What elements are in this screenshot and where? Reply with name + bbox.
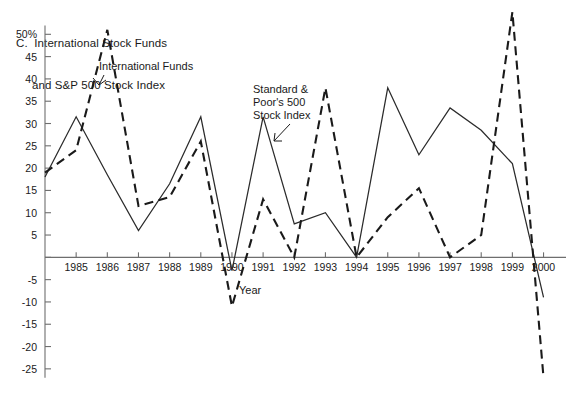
annotation-sp500-label-line-1: Standard & <box>253 83 309 95</box>
x-axis-tick-label: 1996 <box>407 261 431 273</box>
chart-figure: C. International Stock Funds and S&P 500… <box>0 0 584 398</box>
y-axis-tick-label: 45 <box>25 51 37 63</box>
x-axis-tick-label: 1995 <box>376 261 400 273</box>
x-axis-tick-label: 1999 <box>501 261 525 273</box>
y-axis-tick-label: 35 <box>25 95 37 107</box>
annotation-sp500-label-line-3: Stock Index <box>253 109 311 121</box>
y-axis-tick-label: 40 <box>25 73 37 85</box>
x-axis-tick-label: 1987 <box>127 261 151 273</box>
x-axis: 1985198619871988198919901991199219931994… <box>45 252 566 273</box>
x-axis-tick-label: 1993 <box>314 261 338 273</box>
x-axis-tick-label: 1989 <box>189 261 213 273</box>
annotation-international-funds-label: International Funds <box>99 60 194 72</box>
x-axis-tick-label: 1997 <box>438 261 462 273</box>
y-axis-tick-label: -20 <box>22 341 37 353</box>
x-axis-tick-label: 1986 <box>96 261 120 273</box>
y-axis-ticks: 50%45403530252015105-5-10-15-20-25 <box>16 28 51 375</box>
x-axis-ticks: 1985198619871988198919901991199219931994… <box>64 252 555 273</box>
annotation-sp500-label-line-2: Poor's 500 <box>253 96 305 108</box>
annotation-international-funds-leader <box>93 75 106 85</box>
annotation-sp500-leader <box>274 124 290 141</box>
y-axis-tick-label: 5 <box>31 229 37 241</box>
annotation-year: Year <box>239 284 262 296</box>
x-axis-tick-label: 1992 <box>283 261 307 273</box>
x-axis-tick-label: 1988 <box>158 261 182 273</box>
y-axis-tick-label: -25 <box>22 363 37 375</box>
x-axis-tick-label: 1991 <box>251 261 275 273</box>
y-axis-tick-label: -5 <box>28 274 37 286</box>
y-axis-tick-label: -15 <box>22 318 37 330</box>
x-axis-tick-label: 1994 <box>345 261 369 273</box>
y-axis-tick-label: 30 <box>25 118 37 130</box>
line-chart-plot: 50%45403530252015105-5-10-15-20-25 19851… <box>0 0 584 398</box>
y-axis-tick-label: 15 <box>25 184 37 196</box>
y-axis-tick-label: -10 <box>22 296 37 308</box>
y-axis-tick-label: 25 <box>25 140 37 152</box>
x-axis-tick-label: 1998 <box>470 261 494 273</box>
x-axis-tick-label: 1985 <box>64 261 88 273</box>
y-axis-tick-label: 10 <box>25 207 37 219</box>
axis-title-year: Year <box>239 284 262 296</box>
y-axis: 50%45403530252015105-5-10-15-20-25 <box>16 25 51 377</box>
annotation-international-funds: International Funds <box>93 60 194 85</box>
y-axis-tick-label: 50% <box>16 28 37 40</box>
annotation-sp500: Standard & Poor's 500 Stock Index <box>253 83 311 141</box>
y-axis-tick-label: 20 <box>25 162 37 174</box>
